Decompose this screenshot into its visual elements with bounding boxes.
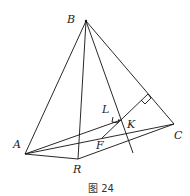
segment-BR <box>78 21 86 159</box>
label-R: R <box>72 163 81 176</box>
figure-caption: 图 24 <box>88 183 114 194</box>
label-B: B <box>66 13 75 26</box>
segment-BC <box>86 21 174 124</box>
segment-BA <box>25 21 86 154</box>
label-F: F <box>95 139 104 152</box>
label-A: A <box>12 138 21 151</box>
segment-RC <box>78 124 174 159</box>
line-BK <box>86 21 133 153</box>
geometry-figure: B A R C F K L 图 24 <box>0 0 190 196</box>
segment-AR <box>25 154 78 159</box>
label-L: L <box>101 103 109 116</box>
label-C: C <box>174 129 183 142</box>
point-B <box>85 20 87 22</box>
label-K: K <box>126 118 136 131</box>
